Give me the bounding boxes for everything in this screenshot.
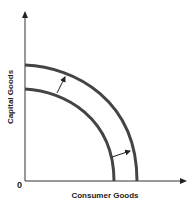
shift-arrow-upper bbox=[57, 77, 65, 93]
y-axis-label: Capital Goods bbox=[6, 69, 15, 124]
origin-label: 0 bbox=[17, 180, 22, 190]
y-axis-arrow-icon bbox=[22, 11, 28, 18]
inner-ppf-curve bbox=[25, 89, 114, 181]
x-axis-arrow-icon bbox=[180, 178, 187, 184]
ppf-chart: 0 Consumer Goods Capital Goods bbox=[0, 0, 194, 206]
shift-arrow-lower bbox=[112, 151, 130, 157]
x-axis-label: Consumer Goods bbox=[71, 191, 139, 200]
outer-ppf-curve bbox=[25, 65, 137, 181]
